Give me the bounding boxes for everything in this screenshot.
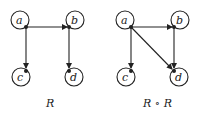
node-label-a: a [121,14,128,27]
node-label-c: c [17,71,23,84]
edge-a-d [131,27,172,69]
relation-diagrams: a b c d R a b c d R ∘ R [0,0,203,114]
node-label-a: a [16,14,23,27]
caption-r-compose-r: R ∘ R [142,97,172,110]
node-label-d: d [70,71,77,84]
caption-r: R [45,97,54,110]
node-label-d: d [175,71,182,84]
node-label-c: c [122,71,128,84]
node-label-b: b [71,14,78,27]
node-label-b: b [176,14,183,27]
